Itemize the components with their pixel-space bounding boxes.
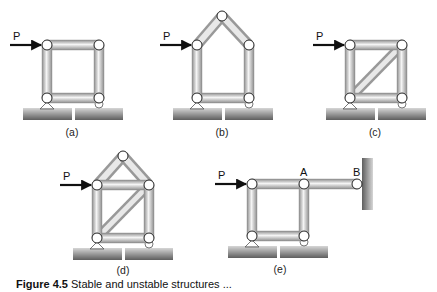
- ground-right: [75, 108, 123, 120]
- ground-right: [378, 108, 426, 120]
- member-bottom: [97, 233, 149, 243]
- member-right: [144, 185, 154, 238]
- member-top: [97, 180, 149, 190]
- ground-left: [228, 246, 277, 258]
- panel-d: [60, 151, 173, 260]
- panel-label-e: (e): [274, 263, 287, 275]
- ground-right: [125, 248, 173, 260]
- panel-a: [10, 40, 123, 120]
- member-right: [244, 45, 254, 98]
- load-label-b: P: [163, 30, 170, 42]
- ground-left: [173, 108, 222, 120]
- load-label-c: P: [316, 30, 323, 42]
- member-left: [92, 185, 102, 238]
- member-bottom: [350, 93, 402, 103]
- panel-e: [215, 158, 373, 258]
- member-right: [299, 184, 309, 236]
- ground-right: [280, 246, 328, 258]
- ground-right: [225, 108, 273, 120]
- member-top: [350, 40, 402, 50]
- caption-number: Figure 4.5: [16, 278, 68, 290]
- ground-left: [326, 108, 375, 120]
- member-left: [192, 45, 202, 98]
- caption-text: Stable and unstable structures ...: [71, 278, 232, 290]
- member-left: [247, 184, 257, 236]
- point-label-a: A: [300, 166, 307, 178]
- panel-label-b: (b): [216, 126, 229, 138]
- member-right: [397, 45, 407, 98]
- panel-label-c: (c): [369, 126, 381, 138]
- figure-caption: Figure 4.5 Stable and unstable structure…: [16, 278, 232, 290]
- member-bottom: [252, 231, 304, 241]
- member-bottom: [47, 93, 99, 103]
- member-bottom: [197, 93, 249, 103]
- member-top: [47, 40, 99, 50]
- point-label-b: B: [353, 166, 360, 178]
- load-label-d: P: [63, 170, 70, 182]
- panel-label-d: (d): [117, 264, 130, 276]
- ground-left: [23, 108, 72, 120]
- member-left: [42, 45, 52, 98]
- ground-left: [73, 248, 122, 260]
- panel-c: [313, 40, 426, 120]
- panel-label-a: (a): [66, 126, 79, 138]
- panel-b: [160, 11, 273, 120]
- wall-support: [362, 158, 373, 210]
- load-label-e: P: [218, 169, 225, 181]
- load-label-a: P: [13, 30, 20, 42]
- member-left: [345, 45, 355, 98]
- member-right: [94, 45, 104, 98]
